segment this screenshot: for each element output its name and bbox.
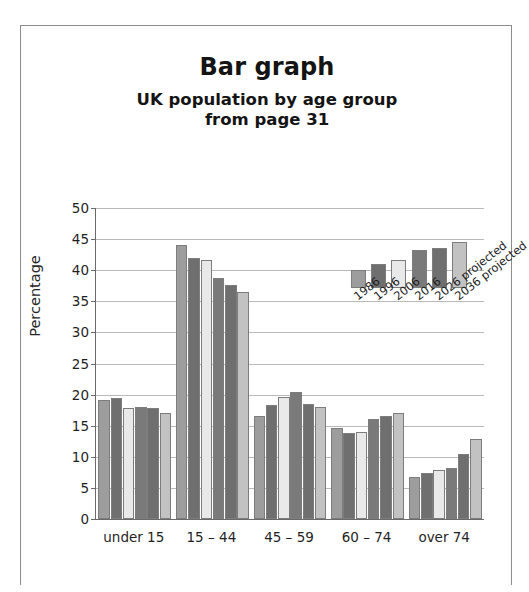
bar xyxy=(135,407,147,519)
bar xyxy=(237,292,249,519)
gridline-0: 0 xyxy=(96,519,484,520)
x-tick-label: 60 – 74 xyxy=(328,529,406,545)
bar xyxy=(188,258,200,519)
chart-area: Percentage 05101520253035404550 under 15… xyxy=(21,26,513,586)
x-tick-label: 15 – 44 xyxy=(173,529,251,545)
page-frame: Bar graph UK population by age group fro… xyxy=(20,25,512,585)
y-tick-30: 30 xyxy=(72,324,89,340)
y-axis-label: Percentage xyxy=(27,206,43,386)
bar xyxy=(446,468,458,519)
bar xyxy=(380,416,392,519)
bar xyxy=(331,428,343,519)
bar xyxy=(433,470,445,519)
bar xyxy=(356,432,368,519)
bar xyxy=(266,405,278,519)
bar xyxy=(201,260,213,519)
bar xyxy=(470,439,482,519)
bar xyxy=(368,419,380,519)
bar xyxy=(147,408,159,519)
bar-group xyxy=(174,208,252,519)
bar xyxy=(421,473,433,519)
bar xyxy=(458,454,470,519)
chart-legend: 19861996200620162026 projected2036 proje… xyxy=(351,236,481,356)
bar xyxy=(315,407,327,519)
bar xyxy=(225,285,237,519)
x-axis-labels: under 1515 – 4445 – 5960 – 74over 74 xyxy=(95,529,483,545)
bar xyxy=(123,408,135,519)
bar-group xyxy=(251,208,329,519)
y-tickmark-0 xyxy=(91,519,96,520)
bar xyxy=(278,397,290,519)
y-tick-45: 45 xyxy=(72,231,89,247)
bar xyxy=(290,392,302,519)
y-tick-10: 10 xyxy=(72,448,89,464)
bar xyxy=(303,404,315,519)
bar-group xyxy=(96,208,174,519)
bar xyxy=(213,278,225,519)
bar xyxy=(409,477,421,519)
bar xyxy=(343,433,355,519)
bar xyxy=(98,400,110,519)
bar xyxy=(393,413,405,519)
y-tick-35: 35 xyxy=(72,293,89,309)
bar xyxy=(176,245,188,519)
bar xyxy=(160,413,172,519)
x-tick-label: 45 – 59 xyxy=(250,529,328,545)
y-tick-15: 15 xyxy=(72,417,89,433)
y-tick-25: 25 xyxy=(72,355,89,371)
y-tick-5: 5 xyxy=(80,480,89,496)
x-tick-label: under 15 xyxy=(95,529,173,545)
y-tick-0: 0 xyxy=(80,511,89,527)
y-tick-40: 40 xyxy=(72,262,89,278)
bar xyxy=(254,416,266,519)
bar xyxy=(111,398,123,519)
x-tick-label: over 74 xyxy=(405,529,483,545)
y-tick-50: 50 xyxy=(72,200,89,216)
y-tick-20: 20 xyxy=(72,386,89,402)
